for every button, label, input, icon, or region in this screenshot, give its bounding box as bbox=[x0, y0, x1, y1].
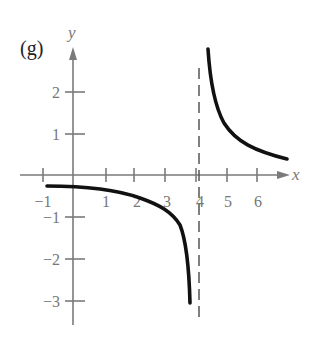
curve-right-branch bbox=[208, 49, 287, 159]
y-tick-label: −1 bbox=[43, 209, 60, 226]
y-axis-arrow-icon bbox=[69, 47, 77, 60]
y-tick-label: −2 bbox=[43, 251, 60, 268]
x-tick-label: 6 bbox=[254, 193, 262, 210]
y-axis-label: y bbox=[66, 23, 76, 42]
y-tick-label: 2 bbox=[52, 84, 60, 101]
y-ticks bbox=[65, 92, 85, 301]
y-tick-label: 1 bbox=[52, 126, 60, 143]
x-axis-label: x bbox=[291, 165, 300, 184]
rational-function-graph: (g) y x −1 1 2 3 4 5 6 2 1 −1 −2 bbox=[0, 0, 329, 343]
x-tick-label: 4 bbox=[196, 193, 204, 210]
x-tick-label: 1 bbox=[102, 193, 110, 210]
x-tick-label: −1 bbox=[34, 193, 51, 210]
y-tick-label: −3 bbox=[43, 293, 60, 310]
x-tick-label: 5 bbox=[224, 193, 232, 210]
x-axis-arrow-icon bbox=[277, 171, 290, 179]
panel-label: (g) bbox=[20, 37, 43, 60]
